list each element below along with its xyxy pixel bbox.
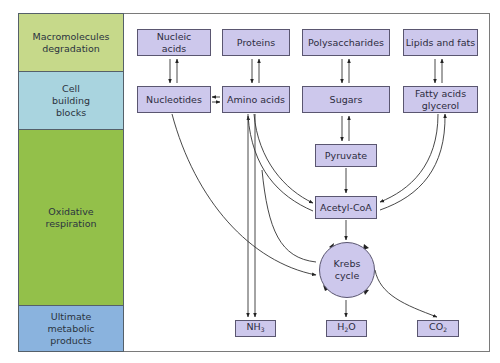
node-krebs-cycle: Krebs cycle — [319, 242, 375, 298]
node-h2o: H2O — [326, 320, 367, 337]
node-nh3: NH3 — [235, 320, 276, 337]
node-fatty-acids-glycerol: Fatty acids glycerol — [403, 86, 478, 113]
row-label-cell-building-blocks: Cell building blocks — [18, 71, 124, 130]
node-nucleic-acids: Nucleic acids — [137, 29, 211, 56]
node-sugars: Sugars — [302, 86, 390, 113]
row-label-text: Macromolecules degradation — [31, 31, 111, 55]
row-label-text: Cell building blocks — [45, 83, 97, 119]
node-polysaccharides: Polysaccharides — [302, 29, 390, 56]
row-label-text: Ultimate metabolic products — [41, 311, 101, 347]
row-label-text: Oxidative respiration — [38, 206, 104, 230]
node-co2: CO2 — [417, 320, 459, 337]
node-acetyl-coa: Acetyl-CoA — [315, 196, 377, 219]
row-label-ultimate-metabolic-products: Ultimate metabolic products — [18, 305, 124, 352]
row-label-macromolecules-degradation: Macromolecules degradation — [18, 13, 124, 72]
node-nucleotides: Nucleotides — [137, 86, 211, 113]
node-lipids-and-fats: Lipids and fats — [403, 29, 478, 56]
row-label-oxidative-respiration: Oxidative respiration — [18, 129, 124, 306]
node-proteins: Proteins — [222, 29, 290, 56]
node-amino-acids: Amino acids — [222, 86, 290, 113]
node-pyruvate: Pyruvate — [315, 144, 377, 167]
